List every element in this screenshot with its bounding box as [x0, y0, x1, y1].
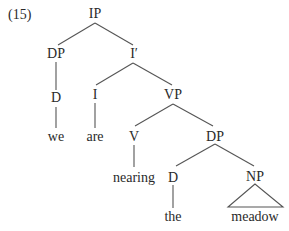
node-i-head: I [93, 88, 98, 102]
node-vp: VP [164, 88, 182, 102]
branch-ip-dp [58, 23, 95, 45]
node-d-object: D [168, 171, 178, 185]
node-d-subject: D [51, 91, 61, 105]
branch-ibar-i [96, 63, 133, 85]
np-triangle [228, 184, 283, 207]
branch-ibar-vp [133, 63, 172, 85]
leaf-the: the [164, 210, 181, 224]
branch-vp-dp [173, 104, 213, 126]
node-v-head: V [129, 130, 139, 144]
leaf-nearing: nearing [113, 171, 155, 185]
node-i-bar: I′ [130, 47, 138, 61]
example-number: (15) [8, 8, 31, 22]
branch-ip-ibar [95, 23, 133, 45]
node-dp-subject: DP [47, 47, 65, 61]
branch-dp-d [176, 144, 215, 166]
node-np: NP [246, 170, 264, 184]
leaf-we: we [48, 130, 64, 144]
tree-branches [0, 0, 289, 231]
branch-dp-np [215, 144, 254, 166]
node-ip: IP [89, 7, 101, 21]
syntax-tree-diagram: (15) IP DP I′ D I VP we are V DP nearing… [0, 0, 289, 231]
leaf-are: are [86, 130, 103, 144]
leaf-meadow: meadow [231, 210, 278, 224]
branch-vp-v [135, 104, 173, 126]
node-dp-object: DP [206, 130, 224, 144]
